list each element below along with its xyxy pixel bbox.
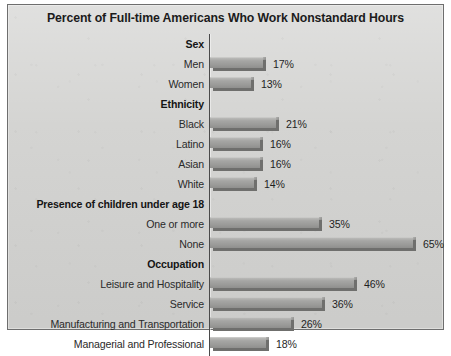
chart-bar-row: Manufacturing and Transportation26%: [8, 314, 445, 334]
bar-side-face: [322, 300, 325, 311]
bar-side-face: [266, 340, 269, 351]
bar-bottom-face: [213, 288, 357, 291]
bar-bottom-face: [213, 328, 294, 331]
bar-top-chamfer: [322, 297, 325, 300]
chart-bar-row: Women13%: [8, 74, 445, 94]
bar-bottom-face: [213, 348, 269, 351]
chart-bar: [210, 57, 266, 71]
bar-category-label: Service: [8, 298, 204, 310]
chart-bar: [210, 117, 279, 131]
bar-side-face: [260, 160, 263, 171]
bar-front-face: [210, 277, 354, 288]
chart-bar-row: Leisure and Hospitality46%: [8, 274, 445, 294]
bar-category-label: Managerial and Professional: [8, 338, 204, 350]
chart-bar: [210, 217, 322, 231]
bar-category-label: Black: [8, 118, 204, 130]
bar-top-chamfer: [413, 237, 416, 240]
bar-front-face: [210, 177, 254, 188]
chart-bar: [210, 317, 294, 331]
group-heading: Occupation: [8, 258, 204, 270]
bar-side-face: [263, 60, 266, 71]
bar-front-face: [210, 117, 276, 128]
bar-front-face: [210, 157, 260, 168]
group-heading-row: Ethnicity: [8, 94, 445, 114]
chart-bar: [210, 277, 357, 291]
bar-value-label: 65%: [423, 238, 444, 250]
bar-top-chamfer: [276, 117, 279, 120]
bar-bottom-face: [213, 188, 257, 191]
bar-value-label: 16%: [270, 158, 291, 170]
bar-category-label: Manufacturing and Transportation: [8, 318, 204, 330]
plot-area: SexMen17%Women13%EthnicityBlack21%Latino…: [8, 5, 445, 331]
bar-front-face: [210, 337, 266, 348]
group-heading: Ethnicity: [8, 98, 204, 110]
chart-bar: [210, 337, 269, 351]
bar-side-face: [413, 240, 416, 251]
bar-bottom-face: [213, 88, 254, 91]
group-heading-row: Occupation: [8, 254, 445, 274]
bar-side-face: [251, 80, 254, 91]
bar-value-label: 26%: [301, 318, 322, 330]
bar-value-label: 16%: [270, 138, 291, 150]
chart-bar-row: One or more35%: [8, 214, 445, 234]
chart-panel: Percent of Full-time Americans Who Work …: [7, 4, 444, 330]
bar-side-face: [319, 220, 322, 231]
bar-category-label: Leisure and Hospitality: [8, 278, 204, 290]
group-heading-row: Presence of children under age 18: [8, 194, 445, 214]
bar-category-label: Latino: [8, 138, 204, 150]
bar-value-label: 17%: [273, 58, 294, 70]
bar-value-label: 36%: [332, 298, 353, 310]
bar-top-chamfer: [260, 157, 263, 160]
bar-bottom-face: [213, 248, 416, 251]
chart-bar-row: Asian16%: [8, 154, 445, 174]
bar-bottom-face: [213, 68, 266, 71]
bar-front-face: [210, 57, 263, 68]
bar-top-chamfer: [354, 277, 357, 280]
group-heading: Presence of children under age 18: [8, 198, 204, 210]
bar-category-label: None: [8, 238, 204, 250]
bar-front-face: [210, 317, 291, 328]
bar-front-face: [210, 77, 251, 88]
bar-top-chamfer: [266, 337, 269, 340]
bar-bottom-face: [213, 128, 279, 131]
chart-bar-row: None65%: [8, 234, 445, 254]
chart-bar-row: Managerial and Professional18%: [8, 334, 445, 354]
bar-top-chamfer: [254, 177, 257, 180]
bar-value-label: 18%: [276, 338, 297, 350]
chart-bar-row: White14%: [8, 174, 445, 194]
bar-front-face: [210, 237, 413, 248]
chart-bar-row: Men17%: [8, 54, 445, 74]
chart-bar-row: Service36%: [8, 294, 445, 314]
bar-value-label: 21%: [286, 118, 307, 130]
bar-top-chamfer: [319, 217, 322, 220]
bar-category-label: Men: [8, 58, 204, 70]
bar-category-label: Women: [8, 78, 204, 90]
bar-bottom-face: [213, 148, 263, 151]
chart-bar: [210, 237, 416, 251]
bar-side-face: [291, 320, 294, 331]
bar-top-chamfer: [251, 77, 254, 80]
bar-side-face: [276, 120, 279, 131]
bar-bottom-face: [213, 308, 325, 311]
bar-value-label: 35%: [329, 218, 350, 230]
chart-bar: [210, 157, 263, 171]
bar-front-face: [210, 297, 322, 308]
group-heading: Sex: [8, 38, 204, 50]
bar-category-label: Asian: [8, 158, 204, 170]
bar-value-label: 14%: [264, 178, 285, 190]
bar-value-label: 46%: [364, 278, 385, 290]
bar-side-face: [254, 180, 257, 191]
chart-bar: [210, 177, 257, 191]
bar-front-face: [210, 137, 260, 148]
bar-top-chamfer: [263, 57, 266, 60]
bar-front-face: [210, 217, 319, 228]
bar-top-chamfer: [291, 317, 294, 320]
chart-bar: [210, 297, 325, 311]
bar-value-label: 13%: [261, 78, 282, 90]
chart-bar: [210, 77, 254, 91]
bar-side-face: [354, 280, 357, 291]
bar-category-label: White: [8, 178, 204, 190]
bar-bottom-face: [213, 168, 263, 171]
group-heading-row: Sex: [8, 34, 445, 54]
chart-bar: [210, 137, 263, 151]
